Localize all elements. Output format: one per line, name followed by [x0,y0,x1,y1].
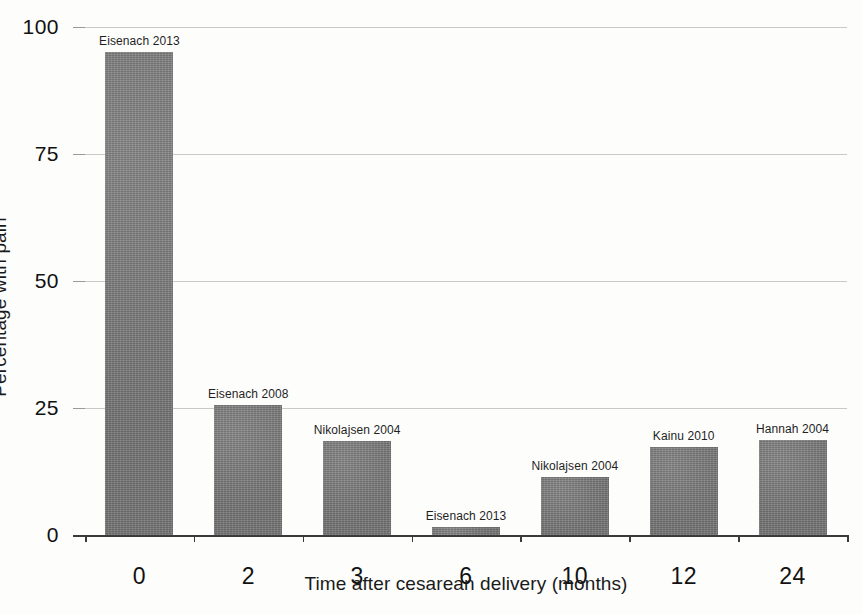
bar-annotation: Eisenach 2008 [208,387,289,401]
y-tick-mark [73,408,85,409]
bar-annotation: Eisenach 2013 [99,34,180,48]
bar-slot: Nikolajsen 2004 [520,27,629,535]
bar-annotation: Kainu 2010 [653,429,715,443]
bar-annotation: Nikolajsen 2004 [531,459,618,473]
y-tick-mark [73,27,85,28]
x-tick-mark [194,535,196,542]
y-tick-mark [73,535,85,537]
x-tick-mark [303,535,305,542]
bar-slot: Eisenach 2013 [85,27,194,535]
bar-slot: Kainu 2010 [629,27,738,535]
y-tick-mark [73,281,85,282]
bar[interactable] [759,440,827,535]
y-axis-title: Percentage with pain [0,0,60,614]
bar-slot: Eisenach 2013 [412,27,521,535]
bar[interactable] [105,52,173,535]
y-tick-label: 0 [0,523,59,547]
x-axis-line [85,535,847,537]
bar[interactable] [432,527,500,535]
x-tick-mark [85,535,87,542]
bar-annotation: Hannah 2004 [756,422,829,436]
bar[interactable] [323,441,391,535]
bar-chart-figure: Percentage with pain 0255075100Eisenach … [0,0,862,614]
bar-slot: Eisenach 2008 [194,27,303,535]
x-tick-mark [847,535,849,542]
bar-annotation: Nikolajsen 2004 [314,423,401,437]
bar-slot: Nikolajsen 2004 [303,27,412,535]
x-axis-title: Time after cesarean delivery (months) [85,573,847,595]
bar-slot: Hannah 2004 [738,27,847,535]
x-tick-mark [520,535,522,542]
x-tick-mark [629,535,631,542]
y-tick-label: 100 [0,15,59,39]
y-tick-label: 75 [0,142,59,166]
bar-annotation: Eisenach 2013 [426,509,507,523]
bar[interactable] [214,405,282,535]
bar[interactable] [541,477,609,535]
y-tick-label: 50 [0,269,59,293]
y-tick-label: 25 [0,396,59,420]
x-tick-mark [738,535,740,542]
plot-area: 0255075100Eisenach 2013Eisenach 2008Niko… [85,27,847,535]
bar[interactable] [650,447,718,535]
y-tick-mark [73,154,85,155]
x-tick-mark [412,535,414,542]
